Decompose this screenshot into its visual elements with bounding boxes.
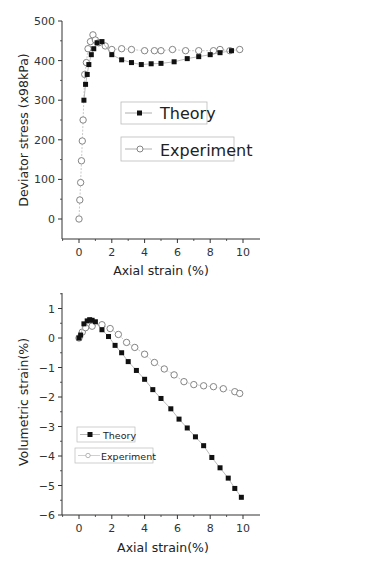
- experiment-point: [76, 216, 82, 222]
- theory-point: [149, 61, 154, 66]
- theory-point: [83, 82, 88, 87]
- experiment-point: [196, 48, 202, 54]
- theory-point: [159, 396, 164, 401]
- y-tick-label: −4: [39, 450, 55, 463]
- theory-point: [209, 455, 214, 460]
- theory-point: [172, 59, 177, 64]
- theory-point: [208, 52, 213, 57]
- experiment-point: [115, 331, 121, 337]
- theory-point: [91, 46, 96, 51]
- x-tick-label: 4: [141, 246, 148, 259]
- y-tick-label: 300: [34, 94, 55, 107]
- theory-point: [106, 334, 111, 339]
- experiment-point: [200, 383, 206, 389]
- experiment-point: [158, 48, 164, 54]
- theory-point: [239, 495, 244, 500]
- theory-point: [113, 343, 118, 348]
- experiment-marker-icon: [86, 453, 90, 457]
- theory-point: [86, 62, 91, 67]
- y-tick-label: 0: [48, 213, 55, 226]
- x-ticks: 0246810: [63, 239, 250, 259]
- experiment-point: [107, 325, 113, 331]
- theory-point: [218, 50, 223, 55]
- y-axis-label: Volumetric strain(%): [16, 338, 31, 466]
- y-ticks: 0100200300400500: [34, 15, 62, 226]
- theory-point: [139, 62, 144, 67]
- experiment-point: [77, 179, 83, 185]
- volumetric-strain-chart: 10−1−2−3−4−5−6 0246810 Volumetric strain…: [16, 293, 260, 555]
- experiment-point: [169, 46, 175, 52]
- theory-point: [226, 476, 231, 481]
- experiment-point: [151, 48, 157, 54]
- theory-point: [119, 57, 124, 62]
- x-tick-label: 4: [141, 522, 148, 535]
- y-tick-label: 0: [48, 332, 55, 345]
- experiment-point: [151, 359, 157, 365]
- experiment-point: [161, 366, 167, 372]
- theory-point: [109, 52, 114, 57]
- experiment-line: [79, 325, 240, 394]
- theory-point: [119, 350, 124, 355]
- theory-point: [185, 425, 190, 430]
- experiment-marker-icon: [137, 146, 143, 152]
- theory-point: [99, 39, 104, 44]
- experiment-point: [210, 383, 216, 389]
- figure: 0100200300400500 0246810 Deviator stress…: [0, 0, 375, 572]
- y-tick-label: 100: [34, 173, 55, 186]
- y-tick-label: 200: [34, 134, 55, 147]
- x-ticks: 0246810: [63, 515, 250, 535]
- legend-label-experiment: Experiment: [101, 451, 156, 462]
- y-tick-label: 1: [48, 303, 55, 316]
- experiment-point: [191, 381, 197, 387]
- x-tick-label: 10: [236, 522, 250, 535]
- experiment-point: [85, 46, 91, 52]
- theory-point: [218, 465, 223, 470]
- theory-point: [78, 333, 83, 338]
- y-tick-label: 400: [34, 55, 55, 68]
- experiment-point: [182, 48, 188, 54]
- theory-point: [81, 98, 86, 103]
- experiment-point: [171, 372, 177, 378]
- theory-point: [134, 368, 139, 373]
- experiment-point: [77, 197, 83, 203]
- legend-label-theory: Theory: [159, 104, 216, 123]
- x-axis-label: Axial strain(%): [117, 540, 209, 555]
- theory-point: [232, 486, 237, 491]
- y-tick-label: −2: [39, 391, 55, 404]
- experiment-point: [123, 339, 129, 345]
- theory-point: [201, 443, 206, 448]
- x-tick-label: 0: [76, 246, 83, 259]
- x-axis-label: Axial strain (%): [113, 263, 209, 278]
- y-tick-label: 500: [34, 15, 55, 28]
- experiment-point: [237, 390, 243, 396]
- experiment-point: [141, 48, 147, 54]
- y-tick-label: −6: [39, 509, 55, 522]
- y-tick-label: −5: [39, 480, 55, 493]
- experiment-point: [237, 46, 243, 52]
- theory-point: [229, 48, 234, 53]
- legend-label-theory: Theory: [102, 430, 136, 441]
- experiment-point: [80, 117, 86, 123]
- legend: Theory Experiment: [121, 102, 252, 161]
- x-tick-label: 6: [174, 522, 181, 535]
- theory-line: [79, 320, 241, 498]
- theory-point: [196, 54, 201, 59]
- series-group: [76, 32, 243, 223]
- y-axis-label: Deviator stress (x98kPa): [16, 53, 31, 206]
- x-tick-label: 8: [207, 522, 214, 535]
- x-tick-label: 2: [108, 246, 115, 259]
- x-tick-label: 0: [76, 522, 83, 535]
- experiment-point: [78, 158, 84, 164]
- theory-point: [193, 434, 198, 439]
- theory-marker-icon: [137, 111, 142, 116]
- legend: Theory Experiment: [75, 427, 156, 463]
- theory-point: [126, 359, 131, 364]
- experiment-point: [79, 138, 85, 144]
- deviator-stress-chart: 0100200300400500 0246810 Deviator stress…: [16, 15, 260, 278]
- legend-label-experiment: Experiment: [160, 141, 252, 160]
- series-group: [76, 317, 244, 500]
- y-ticks: 10−1−2−3−4−5−6: [39, 294, 62, 522]
- experiment-point: [220, 386, 226, 392]
- x-tick-label: 2: [108, 522, 115, 535]
- theory-point: [93, 319, 98, 324]
